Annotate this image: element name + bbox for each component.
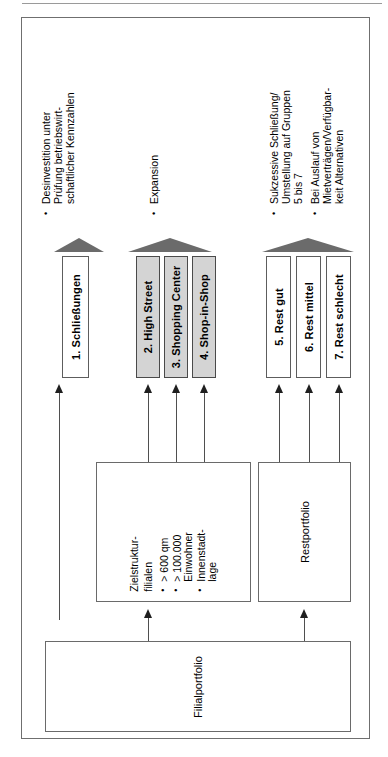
category-box-6-rest-mittel[interactable]: 6. Rest mittel [296, 256, 321, 378]
connector-line-zielstruktur-to-shop-in-shop [204, 392, 205, 462]
group-arrow-closures [54, 238, 104, 252]
category-box-4-shop-in-shop[interactable]: 4. Shop-in-Shop [192, 256, 216, 378]
category-box-1-schliessungen[interactable]: 1. Schließungen [62, 256, 89, 378]
category-box-5-rest-gut[interactable]: 5. Rest gut [266, 256, 291, 378]
annotation-item: Expansion [148, 155, 160, 215]
connector-arrowhead [172, 384, 180, 393]
annotation-group-remainder: Sukzessive Schließung/ Umstellung auf Gr… [268, 30, 378, 220]
zielstruktur-criterion: > 600 qm [159, 529, 171, 592]
source-box-zielstrukturfilialen[interactable]: Zielstruktur- filialen > 600 qm > 100.00… [96, 462, 251, 602]
annotation-item: Sukzessive Schließung/ Umstellung auf Gr… [268, 88, 304, 215]
connector-arrowhead [300, 609, 308, 618]
restportfolio-label: Restportfolio [298, 501, 310, 563]
zielstruktur-title-line1: Zielstruktur- [129, 537, 141, 592]
category-label: 6. Rest mittel [303, 282, 315, 352]
group-arrow-remainder [262, 238, 354, 252]
connector-arrowhead [144, 609, 152, 618]
category-label: 5. Rest gut [273, 288, 285, 345]
connector-line-restportfolio-to-rest-mittel [309, 392, 310, 462]
connector-line-filialportfolio-to-zielstruktur [148, 617, 149, 641]
page-edge-line [22, 3, 382, 4]
connector-line-filialportfolio-to-schliessungen [59, 392, 60, 620]
category-label: 3. Shopping Center [170, 266, 182, 369]
category-box-3-shopping-center[interactable]: 3. Shopping Center [164, 256, 188, 378]
annotation-group-target-structure: Expansion [148, 30, 208, 220]
group-arrow-target-structure [128, 238, 212, 252]
connector-line-restportfolio-to-rest-gut [279, 392, 280, 462]
zielstruktur-criterion: Innenstadt- lage [195, 529, 218, 592]
connector-arrowhead [275, 384, 283, 393]
connector-line-filialportfolio-to-restportfolio [304, 617, 305, 641]
connector-line-zielstruktur-to-shopping-center [176, 392, 177, 462]
category-box-2-high-street[interactable]: 2. High Street [136, 256, 160, 378]
connector-arrowhead [305, 384, 313, 393]
source-box-restportfolio[interactable]: Restportfolio [258, 462, 351, 602]
connector-arrowhead [200, 384, 208, 393]
connector-line-zielstruktur-to-high-street [148, 392, 149, 462]
annotation-item: Bei Auslauf von Mietverträgen/Verfügbar-… [309, 88, 345, 215]
connector-arrowhead [335, 384, 343, 393]
filialportfolio-label: Filialportfolio [192, 656, 204, 718]
category-box-7-rest-schlecht[interactable]: 7. Rest schlecht [326, 256, 351, 378]
base-box-filialportfolio[interactable]: Filialportfolio [45, 641, 351, 732]
category-label: 2. High Street [142, 281, 154, 353]
zielstruktur-title-line2: filialen [142, 562, 154, 592]
zielstruktur-criterion: > 100.000 Einwohner [171, 529, 194, 592]
category-label: 1. Schließungen [70, 274, 82, 360]
category-label: 4. Shop-in-Shop [198, 274, 210, 360]
connector-arrowhead [55, 384, 63, 393]
connector-arrowhead [144, 384, 152, 393]
diagram-canvas: Desinvestition unter Prüfung betriebswir… [0, 0, 388, 757]
category-label: 7. Rest schlecht [333, 274, 345, 359]
annotation-group-closures: Desinvestition unter Prüfung betriebswir… [40, 30, 150, 220]
annotation-item: Desinvestition unter Prüfung betriebswir… [40, 93, 76, 216]
connector-line-restportfolio-to-rest-schlecht [339, 392, 340, 462]
